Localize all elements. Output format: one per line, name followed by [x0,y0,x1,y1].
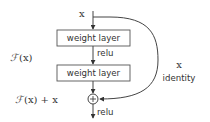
weight-layer-1: weight layer [57,30,130,46]
identity-shortcut-curve [93,17,158,99]
sum-label: ℱ (x) + x [15,94,58,105]
weight-layer-2: weight layer [57,65,130,81]
identity-label: identity [163,73,196,83]
relu-label-output: relu [97,107,113,117]
input-label: x [79,8,85,19]
weight-layer-2-label: weight layer [67,68,121,78]
function-label: ℱ (x) [10,52,33,63]
weight-layer-1-label: weight layer [67,33,121,43]
svg-text:(x) + x: (x) + x [24,94,58,105]
shortcut-x-label: x [176,59,182,70]
relu-label-middle: relu [97,48,113,58]
addition-node [88,94,98,104]
residual-block-diagram: x weight layer relu weight layer relu ℱ … [0,0,210,122]
svg-text:(x): (x) [19,52,33,63]
